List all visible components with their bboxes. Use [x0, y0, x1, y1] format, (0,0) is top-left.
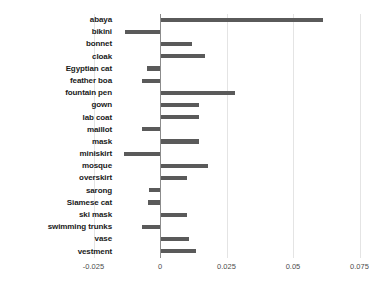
bar-row: vase	[0, 233, 385, 245]
bar	[160, 164, 208, 168]
bar-category-label: feather boa	[70, 75, 112, 87]
horizontal-bar-chart: abayabikinibonnetcloakEgyptian catfeathe…	[0, 0, 385, 291]
bar	[147, 66, 160, 70]
bar-row: lab coat	[0, 112, 385, 124]
bar-rows: abayabikinibonnetcloakEgyptian catfeathe…	[0, 14, 385, 258]
bar	[124, 152, 160, 156]
bar-category-label: abaya	[90, 14, 112, 26]
x-tick-label: 0.075	[350, 262, 369, 271]
bar-category-label: swimming trunks	[48, 221, 112, 233]
bar-category-label: Siamese cat	[67, 197, 112, 209]
zero-axis-line	[160, 14, 161, 258]
bar	[160, 213, 187, 217]
bar	[160, 176, 187, 180]
bar	[142, 79, 160, 83]
bar-category-label: gown	[92, 99, 112, 111]
bar	[125, 30, 160, 34]
bar	[160, 54, 205, 58]
bar-category-label: sarong	[86, 185, 112, 197]
bar-category-label: Egyptian cat	[66, 63, 112, 75]
bar-row: fountain pen	[0, 87, 385, 99]
bar	[142, 127, 160, 131]
bar-category-label: vase	[95, 233, 112, 245]
bar-category-label: bikini	[92, 26, 112, 38]
bar-category-label: lab coat	[83, 112, 112, 124]
x-tick-label: 0	[158, 262, 162, 271]
bar	[149, 188, 160, 192]
bar-row: gown	[0, 99, 385, 111]
bar-row: abaya	[0, 14, 385, 26]
bar-category-label: cloak	[92, 51, 112, 63]
bar	[160, 91, 235, 95]
bar	[160, 42, 192, 46]
bar-row: Siamese cat	[0, 197, 385, 209]
bar-row: ski mask	[0, 209, 385, 221]
bar-row: cloak	[0, 51, 385, 63]
bar	[142, 225, 160, 229]
bar-category-label: miniskirt	[80, 148, 112, 160]
bar-category-label: vestment	[78, 246, 112, 258]
bar-row: mask	[0, 136, 385, 148]
x-tick-label: -0.025	[83, 262, 104, 271]
bar-row: bikini	[0, 26, 385, 38]
bar	[160, 103, 199, 107]
x-tick-label: 0.05	[286, 262, 301, 271]
x-tick-label: 0.025	[217, 262, 236, 271]
bar-category-label: mosque	[82, 160, 112, 172]
bar-row: feather boa	[0, 75, 385, 87]
bar-row: overskirt	[0, 172, 385, 184]
bar-row: Egyptian cat	[0, 63, 385, 75]
bar-category-label: fountain pen	[65, 87, 112, 99]
bar-row: maillot	[0, 124, 385, 136]
bar	[160, 249, 196, 253]
bar-row: bonnet	[0, 38, 385, 50]
bar-row: mosque	[0, 160, 385, 172]
bar-row: vestment	[0, 246, 385, 258]
bar-category-label: overskirt	[79, 172, 112, 184]
bar-category-label: ski mask	[79, 209, 112, 221]
bar	[148, 200, 160, 204]
bar	[160, 237, 189, 241]
bar-row: swimming trunks	[0, 221, 385, 233]
bar-category-label: bonnet	[86, 38, 112, 50]
bar-row: miniskirt	[0, 148, 385, 160]
bar-row: sarong	[0, 185, 385, 197]
bar-category-label: maillot	[87, 124, 112, 136]
bar-category-label: mask	[92, 136, 112, 148]
bar	[160, 115, 199, 119]
bar	[160, 18, 323, 22]
bar	[160, 139, 199, 143]
x-axis-tick-labels: -0.02500.0250.050.075	[0, 262, 385, 276]
